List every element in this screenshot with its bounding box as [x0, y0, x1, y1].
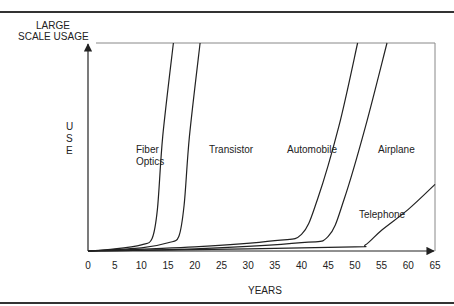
chart-plot: 05101520253035404550556065 FiberOpticsTr…	[0, 0, 454, 306]
series-label-telephone: Telephone	[359, 209, 406, 220]
x-tick-label: 25	[216, 260, 228, 271]
series-label-airplane: Airplane	[378, 144, 415, 155]
x-tick-label: 50	[349, 260, 361, 271]
series-label-transistor: Transistor	[209, 144, 254, 155]
x-tick-label: 65	[429, 260, 441, 271]
x-tick-label: 55	[376, 260, 388, 271]
x-tick-label: 60	[403, 260, 415, 271]
x-tick-label: 0	[85, 260, 91, 271]
series-line-fiber-optics	[88, 43, 173, 251]
series-label-fiber-optics: Optics	[136, 156, 164, 167]
bottom-rule	[0, 302, 454, 304]
series-label-fiber-optics: Fiber	[136, 144, 159, 155]
series-label-automobile: Automobile	[287, 144, 337, 155]
x-tick-label: 5	[112, 260, 118, 271]
x-tick-label: 40	[296, 260, 308, 271]
x-tick-label: 45	[323, 260, 335, 271]
x-tick-label: 20	[189, 260, 201, 271]
x-tick-label: 30	[243, 260, 255, 271]
x-axis-title: YEARS	[248, 285, 282, 296]
x-tick-label: 35	[269, 260, 281, 271]
x-tick-label: 15	[163, 260, 175, 271]
x-tick-label: 10	[136, 260, 148, 271]
